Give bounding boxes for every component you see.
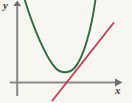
parabola-curve: [25, 0, 96, 72]
linear-line: [53, 23, 114, 101]
y-axis-label: y: [3, 0, 8, 11]
arrow-up-icon: [13, 1, 21, 7]
plot-canvas: [0, 0, 132, 103]
x-axis-label: x: [115, 85, 121, 96]
graph-figure: y x: [0, 0, 132, 103]
